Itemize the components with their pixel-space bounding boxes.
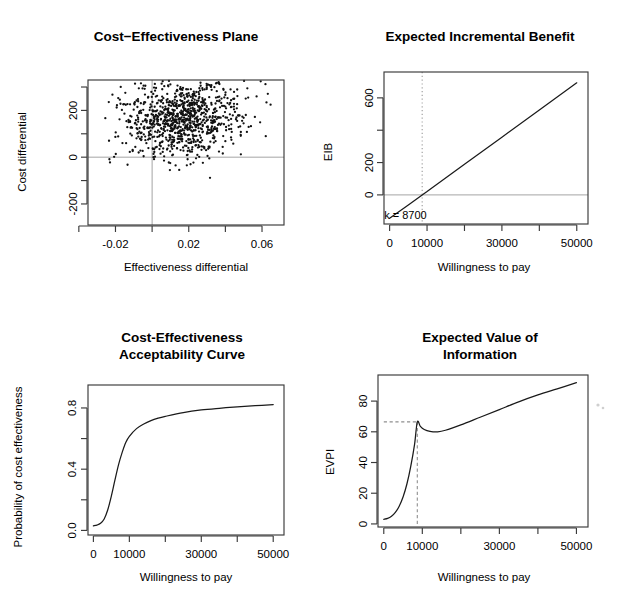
ce-plane-data-point — [144, 135, 146, 137]
evpi-x-tick-label: 30000 — [483, 540, 515, 552]
ce-plane-data-point — [220, 97, 222, 99]
ce-plane-data-point — [212, 115, 214, 117]
ce-plane-data-point — [224, 94, 226, 96]
ce-plane-data-point — [197, 146, 199, 148]
ce-plane-data-point — [156, 120, 158, 122]
ce-plane-data-point — [149, 103, 151, 105]
ce-plane-data-point — [178, 169, 180, 171]
ce-plane-data-point — [190, 88, 192, 90]
ce-plane-data-point — [138, 87, 140, 89]
ce-plane-data-point — [208, 96, 210, 98]
ce-plane-data-point — [218, 82, 220, 84]
ce-plane-data-point — [174, 124, 176, 126]
ce-plane-data-point — [162, 102, 164, 104]
ce-plane-data-point — [167, 84, 169, 86]
ce-plane-data-point — [199, 118, 201, 120]
ce-plane-data-point — [176, 147, 178, 149]
ce-plane-data-point — [222, 152, 224, 154]
ce-plane-data-point — [144, 85, 146, 87]
ce-plane-data-point — [242, 122, 244, 124]
ce-plane-data-point — [195, 126, 197, 128]
ce-plane-data-point — [196, 154, 198, 156]
ce-plane-data-point — [230, 128, 232, 130]
ce-plane-data-point — [189, 110, 191, 112]
ce-plane-data-point — [163, 126, 165, 128]
ce-plane-data-point — [183, 96, 185, 98]
ce-plane-y-tick-label: 200 — [67, 101, 79, 120]
ce-plane-data-point — [120, 86, 122, 88]
ce-plane-data-point — [159, 131, 161, 133]
ce-plane-data-point — [216, 127, 218, 129]
ce-plane-data-point — [197, 100, 199, 102]
ce-plane-data-point — [153, 86, 155, 88]
ce-plane-data-point — [124, 92, 126, 94]
ce-plane-data-point — [246, 87, 248, 89]
ce-plane-data-point — [160, 118, 162, 120]
ce-plane-data-point — [220, 102, 222, 104]
ce-plane-data-point — [222, 146, 224, 148]
ce-plane-data-point — [241, 120, 243, 122]
ce-plane-data-point — [212, 134, 214, 136]
ce-plane-data-point — [123, 113, 125, 115]
scan-speck — [602, 407, 605, 410]
ce-plane-data-point — [149, 138, 151, 140]
ce-plane-data-point — [117, 135, 119, 137]
ce-plane-data-point — [245, 114, 247, 116]
ce-plane-data-point — [169, 139, 171, 141]
ce-plane-data-point — [116, 104, 118, 106]
ce-plane-data-point — [154, 140, 156, 142]
ce-plane-data-point — [193, 139, 195, 141]
ce-plane-data-point — [176, 115, 178, 117]
ce-plane-data-point — [206, 84, 208, 86]
ce-plane-data-point — [201, 87, 203, 89]
ce-plane-data-point — [195, 124, 197, 126]
ce-plane-data-point — [192, 134, 194, 136]
ce-plane-data-point — [195, 157, 197, 159]
ce-plane-data-point — [151, 127, 153, 129]
ce-plane-data-point — [197, 139, 199, 141]
ce-plane-data-point — [153, 151, 155, 153]
ce-plane-data-point — [176, 100, 178, 102]
ce-plane-data-point — [162, 106, 164, 108]
ce-plane-data-point — [230, 99, 232, 101]
ce-plane-data-point — [136, 128, 138, 130]
eib-title: Expected Incremental Benefit — [385, 29, 575, 44]
ce-plane-data-point — [186, 158, 188, 160]
ce-plane-data-point — [202, 119, 204, 121]
ce-plane-data-point — [188, 94, 190, 96]
ce-plane-data-point — [182, 150, 184, 152]
ce-plane-data-point — [156, 102, 158, 104]
ce-plane-data-point — [206, 88, 208, 90]
ce-plane-data-point — [220, 122, 222, 124]
ce-plane-data-point — [138, 127, 140, 129]
ce-plane-data-point — [144, 139, 146, 141]
ce-plane-data-point — [265, 101, 267, 103]
ceac-title-line-1: Cost-Effectiveness — [121, 330, 243, 345]
ce-plane-data-point — [208, 108, 210, 110]
ce-plane-data-point — [135, 137, 137, 139]
ce-plane-data-point — [159, 134, 161, 136]
ce-plane-data-point — [237, 114, 239, 116]
ce-plane-data-point — [210, 89, 212, 91]
ce-plane-data-point — [225, 129, 227, 131]
ce-plane-data-point — [166, 101, 168, 103]
ce-plane-data-point — [144, 119, 146, 121]
ce-plane-data-point — [159, 105, 161, 107]
ceac-y-axis: 0.00.40.8 — [66, 400, 87, 538]
ce-plane-data-point — [215, 110, 217, 112]
ce-plane-data-point — [191, 148, 193, 150]
ce-plane-data-point — [147, 114, 149, 116]
ce-plane-data-point — [166, 114, 168, 116]
ceac-xlabel: Willingness to pay — [140, 571, 233, 583]
ce-plane-data-point — [173, 113, 175, 115]
ce-plane-data-point — [200, 108, 202, 110]
ce-plane-data-point — [214, 140, 216, 142]
ce-plane-data-point — [190, 113, 192, 115]
ce-plane-data-point — [194, 112, 196, 114]
evpi-title-line-2: Information — [443, 347, 517, 362]
ce-plane-data-point — [198, 105, 200, 107]
ce-plane-data-point — [191, 151, 193, 153]
ce-plane-data-point — [136, 106, 138, 108]
ce-plane-data-point — [183, 132, 185, 134]
ce-plane-data-point — [136, 114, 138, 116]
